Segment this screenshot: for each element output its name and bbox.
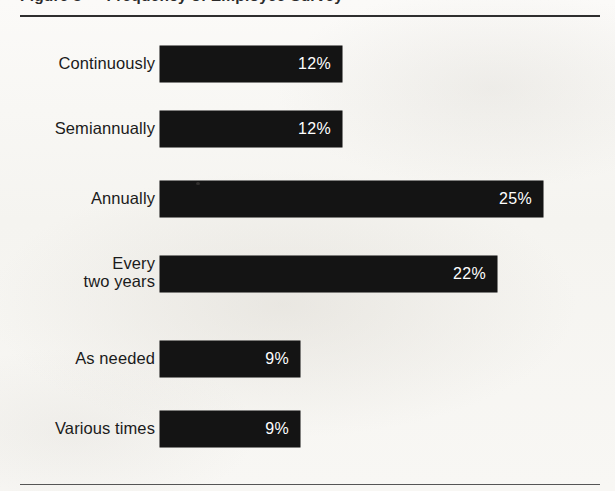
bar-category-label-line1: Various times: [55, 419, 155, 437]
scan-artifact-speck: [196, 182, 200, 185]
caption-divider-rule: [20, 15, 600, 17]
figure-bottom-rule: [20, 484, 600, 485]
bar-row: Semiannually12%: [0, 111, 615, 147]
figure-caption-clipped: Figure 3 — Frequency of Employee Survey: [0, 0, 615, 13]
bar-value-label: 9%: [265, 420, 289, 438]
bar-row: Everytwo years22%: [0, 256, 615, 292]
bar-category-label-line1: Continuously: [58, 54, 155, 72]
bar-category-label-line1: Annually: [91, 189, 155, 207]
bar-value-label: 12%: [298, 120, 331, 138]
bar: 9%: [160, 341, 300, 377]
bar-value-label: 22%: [453, 265, 486, 283]
bar-category-label-line1: Semiannually: [55, 119, 155, 137]
figure-caption-text: Figure 3 — Frequency of Employee Survey: [20, 0, 343, 5]
bar-category-label-line2: two years: [0, 272, 155, 290]
bar: 25%: [160, 181, 543, 217]
bar-category-label-line1: Every: [112, 254, 155, 272]
bar: 22%: [160, 256, 497, 292]
bar-value-label: 9%: [265, 350, 289, 368]
bar-category-label: Continuously: [0, 54, 155, 72]
bar: 12%: [160, 111, 342, 147]
bar-row: Continuously12%: [0, 46, 615, 82]
bar-category-label-line1: As needed: [75, 349, 155, 367]
bar-category-label: Annually: [0, 189, 155, 207]
bar-row: Various times9%: [0, 411, 615, 447]
bar-row: Annually25%: [0, 181, 615, 217]
bar-value-label: 25%: [499, 190, 532, 208]
bar: 12%: [160, 46, 342, 82]
bar-row: As needed9%: [0, 341, 615, 377]
bar-category-label: Semiannually: [0, 119, 155, 137]
bar-category-label: As needed: [0, 349, 155, 367]
bar-value-label: 12%: [298, 55, 331, 73]
bar-chart-plot: Continuously12%Semiannually12%Annually25…: [0, 30, 615, 480]
bar-category-label: Various times: [0, 419, 155, 437]
bar-category-label: Everytwo years: [0, 254, 155, 290]
figure-page: Figure 3 — Frequency of Employee Survey …: [0, 0, 615, 491]
bar: 9%: [160, 411, 300, 447]
